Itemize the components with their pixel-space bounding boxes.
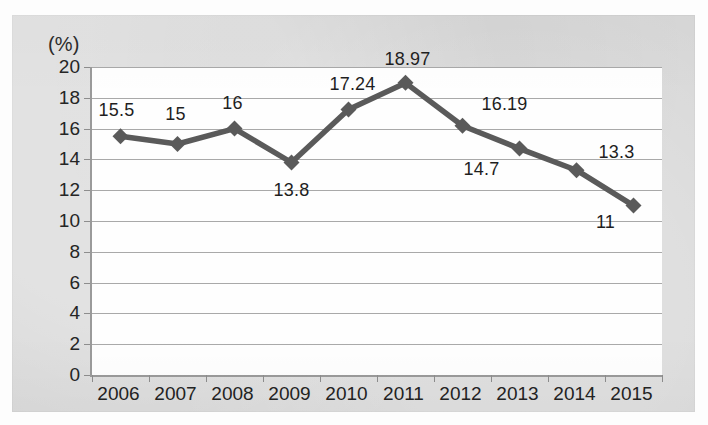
- y-axis-tick-label: 6: [69, 272, 80, 294]
- x-axis-tick-label: 2009: [268, 383, 310, 405]
- x-axis-tick-label: 2014: [553, 383, 595, 405]
- x-axis-tick-label: 2015: [610, 383, 652, 405]
- x-axis-tick-mark: [320, 375, 321, 382]
- x-axis-tick-label: 2006: [97, 383, 139, 405]
- data-point-label: 14.7: [464, 158, 500, 179]
- x-axis-tick-label: 2012: [439, 383, 481, 405]
- data-point-label: 16: [222, 92, 242, 113]
- data-point-label: 13.8: [274, 180, 310, 201]
- data-point-label: 17.24: [329, 73, 375, 94]
- x-axis-tick-mark: [662, 375, 663, 382]
- x-axis-tick-mark: [548, 375, 549, 382]
- data-point-label: 18.97: [384, 48, 430, 69]
- y-axis-tick-label: 18: [59, 87, 80, 109]
- x-axis-tick-mark: [92, 375, 93, 382]
- y-axis-tick-label: 20: [59, 56, 80, 78]
- y-axis-tick-label: 14: [59, 148, 80, 170]
- data-point-label: 13.3: [599, 142, 635, 163]
- x-axis-tick-labels: 2006200720082009201020112012201320142015: [90, 383, 660, 413]
- x-axis-tick-mark: [377, 375, 378, 382]
- data-point-label: 16.19: [481, 93, 527, 114]
- y-axis-tick-label: 12: [59, 179, 80, 201]
- x-axis-tick-mark: [605, 375, 606, 382]
- chart-frame: (%) 20181614121086420 15.5151613.817.241…: [12, 15, 695, 412]
- x-axis-tick-mark: [149, 375, 150, 382]
- x-axis-tick-mark: [263, 375, 264, 382]
- x-axis-tick-label: 2008: [211, 383, 253, 405]
- scanned-page: (%) 20181614121086420 15.5151613.817.241…: [0, 0, 708, 425]
- y-axis-tick-label: 10: [59, 210, 80, 232]
- y-axis-tick-label: 2: [69, 333, 80, 355]
- data-point-label: 15: [165, 104, 185, 125]
- data-point-marker: [170, 136, 186, 152]
- y-axis-tick-label: 0: [69, 364, 80, 386]
- x-axis-tick-mark: [434, 375, 435, 382]
- series-line: [121, 83, 634, 206]
- x-axis-tick-label: 2013: [496, 383, 538, 405]
- y-axis-tick-label: 16: [59, 118, 80, 140]
- data-point-label: 11: [596, 211, 615, 232]
- data-point-label: 15.5: [99, 100, 135, 121]
- x-axis-tick-label: 2007: [154, 383, 196, 405]
- y-axis-tick-labels: 20181614121086420: [24, 67, 80, 375]
- y-axis-tick-label: 8: [69, 241, 80, 263]
- data-point-marker: [512, 141, 528, 157]
- x-axis-tick-label: 2010: [325, 383, 367, 405]
- y-axis-tick-label: 4: [69, 302, 80, 324]
- data-point-marker: [113, 128, 129, 144]
- x-axis-tick-label: 2011: [383, 383, 424, 405]
- x-axis-tick-mark: [206, 375, 207, 382]
- y-axis-unit-label: (%): [48, 33, 80, 56]
- x-axis-tick-mark: [491, 375, 492, 382]
